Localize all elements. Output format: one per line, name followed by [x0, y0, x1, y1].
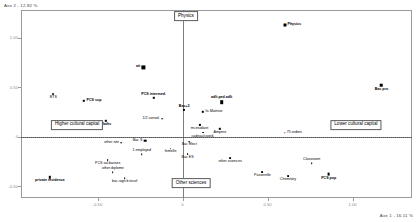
data-point-label: 1 employed	[132, 149, 151, 153]
data-point-label: PCS pop	[321, 177, 336, 181]
data-point-label: Classroom	[303, 158, 320, 162]
x-axis-title: Axe 1 - 16.11 %	[380, 213, 413, 218]
data-point-marker	[152, 97, 154, 99]
data-point-label: Bac Elect	[182, 143, 197, 147]
y-tick-label: 0	[2, 134, 18, 139]
data-point-marker	[283, 23, 286, 26]
data-point-marker	[83, 100, 85, 102]
data-point-marker	[202, 111, 204, 113]
data-point-label: other site	[104, 141, 119, 145]
x-tick-label: 0	[169, 202, 197, 207]
data-point-label: 1/2 consol.	[142, 117, 159, 121]
data-point-label: mi.etudiant	[191, 127, 209, 131]
data-point-label: Bac S	[133, 139, 143, 143]
plot-frame	[21, 10, 412, 198]
data-point-label: cadeau/coord.	[192, 135, 215, 139]
zero-reference-dotted-line	[21, 137, 412, 138]
data-point-label: other sciences	[219, 160, 242, 164]
y-axis-title: Axe 2 - 12.82 %	[4, 3, 38, 8]
data-point-marker	[220, 100, 224, 104]
data-point-label: PCS sup	[87, 99, 102, 103]
data-point-marker	[142, 66, 145, 69]
quadrant-annotation-higher-cultural-capital: Higher cultural capital	[51, 120, 103, 130]
data-point-label: adlt.ped.adlt	[211, 96, 232, 100]
y-tick-mark	[18, 87, 21, 88]
x-tick-label: -0.50	[84, 202, 112, 207]
data-point-label: Bac+3	[179, 105, 190, 109]
data-point-marker	[311, 163, 313, 165]
data-point-label: lic.Maitrise	[206, 110, 223, 114]
data-point-label: bac.sign.b.tecof	[112, 180, 137, 184]
data-point-marker	[112, 171, 114, 173]
data-point-label: Physics	[288, 23, 302, 27]
y-tick-mark	[18, 186, 21, 187]
data-point-label: Bac pro	[375, 88, 388, 92]
x-tick-label: 1.00	[339, 202, 367, 207]
data-point-label: femelle	[165, 150, 177, 154]
data-point-label: Bac ES	[182, 156, 194, 160]
data-point-label: ait	[136, 65, 140, 69]
data-point-label: BTS	[50, 96, 57, 100]
data-point-marker	[183, 109, 185, 111]
data-point-marker	[144, 139, 147, 142]
data-point-marker	[141, 154, 143, 156]
quadrant-annotation-other-sciences: Other sciences	[172, 178, 211, 188]
y-tick-label: 1.00	[2, 35, 18, 40]
y-tick-label: 0.50	[2, 85, 18, 90]
x-tick-label: 0.50	[254, 202, 282, 207]
data-point-label: PCS intermed.	[141, 93, 166, 97]
data-point-label: 75 ordres	[287, 131, 302, 135]
mca-scatter-figure: Axe 2 - 12.82 % Axe 1 - 16.11 % -0.5000.…	[0, 0, 418, 222]
y-tick-label: -0.50	[2, 184, 18, 189]
data-point-label: other diplome	[102, 167, 124, 171]
data-point-label: Ampere	[214, 131, 227, 135]
y-tick-mark	[18, 38, 21, 39]
data-point-label: Chemistry	[280, 178, 296, 182]
quadrant-annotation-physics: Physics	[174, 11, 198, 21]
data-point-marker	[121, 142, 123, 144]
quadrant-annotation-lower-cultural-capital: Lower cultural capital	[330, 120, 381, 130]
data-point-label: private residence	[35, 179, 65, 183]
data-point-marker	[161, 118, 163, 120]
data-point-label: Passerelle	[254, 174, 271, 178]
